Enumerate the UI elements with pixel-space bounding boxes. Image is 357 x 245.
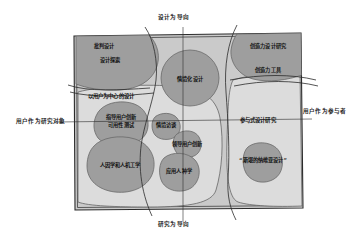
cluster-label-creativity-tools: 创造力工具 bbox=[255, 67, 281, 75]
cluster-label-scandinavian-design: “斯堪的纳维亚设计” bbox=[239, 157, 287, 165]
region-label-participatory-design-research: 参与式设计研究 bbox=[240, 118, 276, 123]
cluster-label-line2: 可用性测试 bbox=[108, 122, 134, 128]
cluster-label-human-factors-ergonomics: 人因学和人机工学 bbox=[100, 162, 141, 170]
diagram-canvas: 设计为导向 研究为导向 用户作为研究对象 用户作为参与者 以用户为中心的设计 参… bbox=[0, 0, 357, 245]
cluster-label-contextual-inquiry: 情境访谈 bbox=[156, 122, 176, 130]
cluster-label-line1: 指导用户创新 bbox=[106, 114, 137, 120]
cluster-label-contextual-design: 情境化设计 bbox=[177, 76, 203, 84]
cluster-label-lead-user-innovation: 领导用户创新 bbox=[172, 141, 203, 149]
axis-label-bottom: 研究为导向 bbox=[158, 222, 189, 228]
axis-label-top: 设计为导向 bbox=[158, 15, 189, 21]
axis-label-left: 用户作为研究对象 bbox=[16, 119, 66, 125]
cluster-label-critical-design: 批判设计 bbox=[94, 43, 114, 51]
region-participatory-design-research bbox=[227, 73, 302, 206]
region-label-user-centered-design: 以用户为中心的设计 bbox=[88, 94, 134, 99]
cluster-label-applied-ethnography: 应用人种学 bbox=[166, 168, 192, 176]
cluster-label-creativity-design-research: 创造力设计研究 bbox=[250, 43, 286, 51]
cluster-label-design-exploration: 设计探索 bbox=[100, 57, 120, 65]
axis-label-right: 用户作为参与者 bbox=[303, 109, 346, 115]
cluster-label-lead-user-innovation-usability: 指导用户创新 可用性测试 bbox=[106, 114, 137, 130]
